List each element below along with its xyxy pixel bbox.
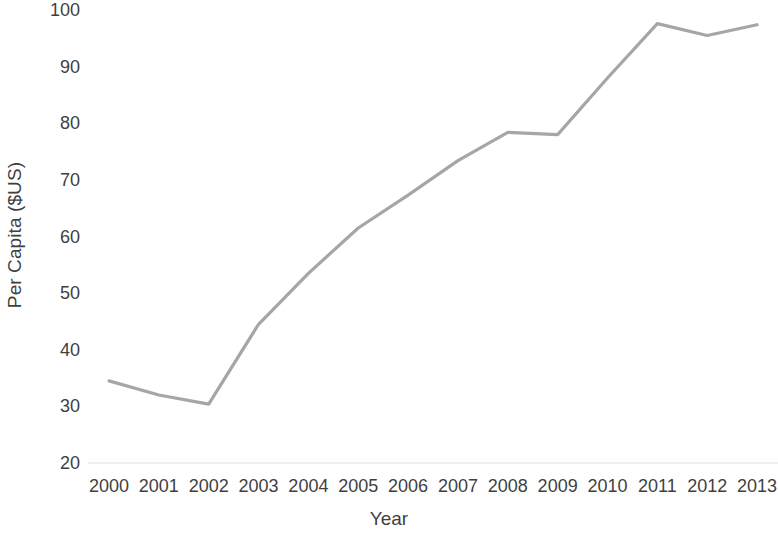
x-tick-label: 2007	[438, 476, 478, 497]
x-tick-label: 2013	[737, 476, 777, 497]
y-tick-label: 50	[60, 283, 80, 304]
x-tick-label: 2000	[89, 476, 129, 497]
y-tick-label: 40	[60, 339, 80, 360]
y-tick-label: 100	[50, 0, 80, 21]
x-tick-label: 2006	[388, 476, 428, 497]
x-axis-tick-labels: 2000200120022003200420052006200720082009…	[0, 476, 778, 502]
x-axis-title: Year	[0, 508, 778, 530]
y-axis-title: Per Capita ($US)	[0, 0, 30, 470]
x-tick-label: 2009	[538, 476, 578, 497]
x-tick-label: 2011	[638, 476, 677, 497]
y-axis-tick-labels: 2030405060708090100	[28, 0, 84, 480]
x-tick-label: 2012	[687, 476, 727, 497]
y-tick-label: 20	[60, 453, 80, 474]
plot-area	[88, 0, 778, 472]
y-axis-title-label: Per Capita ($US)	[4, 162, 26, 308]
data-series-line	[109, 24, 757, 405]
y-tick-label: 80	[60, 113, 80, 134]
x-tick-label: 2003	[239, 476, 279, 497]
x-tick-label: 2005	[338, 476, 378, 497]
y-tick-label: 60	[60, 226, 80, 247]
line-chart: Per Capita ($US) 2030405060708090100 200…	[0, 0, 778, 540]
y-tick-label: 30	[60, 396, 80, 417]
x-tick-label: 2010	[587, 476, 627, 497]
x-tick-label: 2001	[139, 476, 179, 497]
x-tick-label: 2008	[488, 476, 528, 497]
plot-svg	[88, 0, 778, 472]
y-tick-label: 70	[60, 169, 80, 190]
y-tick-label: 90	[60, 56, 80, 77]
x-tick-label: 2004	[288, 476, 328, 497]
x-tick-label: 2002	[189, 476, 229, 497]
